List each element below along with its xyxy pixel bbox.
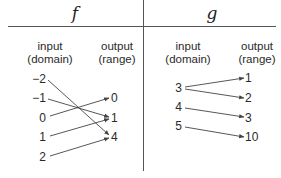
arrow-f-neg1-to-1 [48,99,109,117]
arrow-g-3-to-2 [185,89,244,98]
arrow-f-0-to-0 [50,98,109,116]
mapping-arrows [0,0,281,178]
arrow-g-5-to-10 [185,127,244,137]
arrow-f-2-to-4 [50,138,109,156]
arrow-g-3-to-1 [185,78,244,87]
arrow-g-4-to-3 [185,108,244,117]
